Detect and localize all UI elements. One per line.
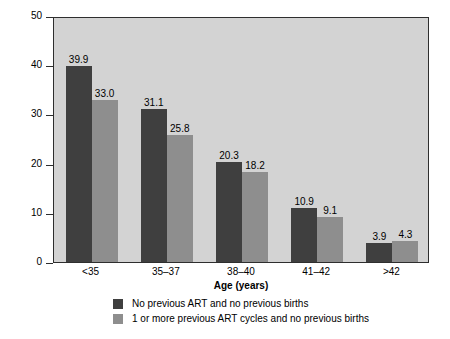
x-axis-title: Age (years) bbox=[214, 280, 268, 291]
x-axis-tick-label: 41–42 bbox=[302, 266, 330, 277]
bar-value-label: 9.1 bbox=[323, 205, 337, 216]
legend-item: No previous ART and no previous births bbox=[113, 296, 369, 311]
chart-legend: No previous ART and no previous births1 … bbox=[113, 296, 369, 326]
bar: 3.9 bbox=[366, 243, 392, 262]
x-axis-tick-label: <35 bbox=[82, 266, 99, 277]
legend-swatch bbox=[113, 314, 123, 324]
bar-value-label: 39.9 bbox=[69, 54, 88, 65]
y-axis-tick-label: 40 bbox=[31, 59, 42, 70]
bar: 25.8 bbox=[167, 135, 193, 262]
y-axis-tick-mark bbox=[46, 115, 53, 116]
bar: 10.9 bbox=[291, 208, 317, 262]
y-axis-tick-label: 0 bbox=[36, 256, 42, 267]
plot-area: 39.933.031.125.820.318.210.99.13.94.3 bbox=[53, 17, 429, 263]
y-axis-tick-label: 50 bbox=[31, 10, 42, 21]
bar: 20.3 bbox=[216, 162, 242, 262]
bar-value-label: 18.2 bbox=[245, 160, 264, 171]
bar: 9.1 bbox=[317, 217, 343, 262]
y-axis-tick-mark bbox=[46, 165, 53, 166]
legend-item: 1 or more previous ART cycles and no pre… bbox=[113, 311, 369, 326]
legend-label: No previous ART and no previous births bbox=[132, 298, 308, 309]
bar: 18.2 bbox=[242, 172, 268, 262]
bar: 39.9 bbox=[66, 66, 92, 262]
bar-value-label: 20.3 bbox=[219, 150, 238, 161]
bar-value-label: 3.9 bbox=[372, 231, 386, 242]
y-axis-tick-mark bbox=[46, 17, 53, 18]
bar-value-label: 10.9 bbox=[294, 196, 313, 207]
x-axis-tick-label: >42 bbox=[383, 266, 400, 277]
legend-swatch bbox=[113, 299, 123, 309]
y-axis-tick-mark bbox=[46, 214, 53, 215]
y-axis-tick-mark bbox=[46, 66, 53, 67]
bar-chart-figure: Percent 01020304050 39.933.031.125.820.3… bbox=[0, 0, 450, 339]
bar: 31.1 bbox=[141, 109, 167, 262]
x-axis-tick-label: 38–40 bbox=[227, 266, 255, 277]
y-axis-tick-label: 20 bbox=[31, 158, 42, 169]
x-axis-tick-label: 35–37 bbox=[152, 266, 180, 277]
y-axis-tick-mark bbox=[46, 263, 53, 264]
bar: 4.3 bbox=[392, 241, 418, 262]
bar-value-label: 25.8 bbox=[170, 123, 189, 134]
y-axis-tick-label: 30 bbox=[31, 108, 42, 119]
bar-value-label: 33.0 bbox=[95, 88, 114, 99]
bar: 33.0 bbox=[92, 100, 118, 262]
bar-value-label: 4.3 bbox=[398, 229, 412, 240]
bar-value-label: 31.1 bbox=[144, 97, 163, 108]
y-axis-tick-label: 10 bbox=[31, 207, 42, 218]
legend-label: 1 or more previous ART cycles and no pre… bbox=[132, 313, 369, 324]
